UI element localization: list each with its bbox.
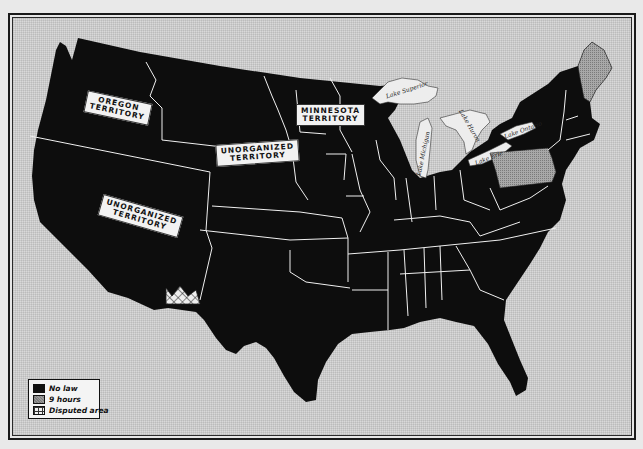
- maine-9-hours: [578, 42, 612, 102]
- legend-label: 9 hours: [49, 395, 81, 404]
- legend-item-no-law: No law: [33, 383, 95, 394]
- legend-item-disputed: Disputed area: [33, 405, 95, 416]
- legend-item-9-hours: 9 hours: [33, 394, 95, 405]
- legend-label: No law: [49, 384, 78, 393]
- swatch-no-law-icon: [33, 384, 45, 393]
- territory-label-minnesota: MINNESOTA TERRITORY: [296, 104, 365, 126]
- swatch-9-hours-icon: [33, 395, 45, 404]
- swatch-disputed-icon: [33, 406, 45, 415]
- map-legend: No law 9 hours Disputed area: [28, 379, 100, 419]
- legend-label: Disputed area: [49, 406, 109, 415]
